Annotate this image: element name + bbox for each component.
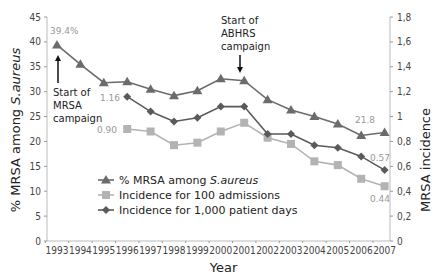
legend-label-1: % MRSA among S.aureus bbox=[119, 174, 258, 187]
left-tick-label: 0 bbox=[35, 236, 41, 247]
mrsa-campaign-label: Start of bbox=[53, 87, 91, 98]
x-tick-label: 1997 bbox=[139, 245, 162, 256]
diamond-marker bbox=[123, 93, 131, 101]
square-marker bbox=[334, 161, 342, 169]
left-tick-label: 35 bbox=[30, 61, 41, 72]
legend-label-2: Incidence for 100 admissions bbox=[119, 189, 280, 202]
square-marker bbox=[170, 141, 178, 149]
left-tick-label: 20 bbox=[30, 136, 42, 147]
left-tick-label: 15 bbox=[30, 161, 41, 172]
x-tick-label: 2004 bbox=[303, 245, 326, 256]
diamond-marker bbox=[357, 152, 365, 160]
diamond-marker bbox=[102, 206, 110, 214]
x-tick-label: 2007 bbox=[373, 245, 396, 256]
label-0-44: 0.44 bbox=[370, 194, 390, 204]
mrsa-campaign-arrow-head bbox=[55, 55, 61, 61]
square-marker bbox=[357, 175, 365, 183]
right-tick-label: 0,4 bbox=[397, 186, 412, 197]
right-tick-label: 1,2 bbox=[397, 86, 411, 97]
series-line bbox=[127, 97, 384, 170]
square-marker bbox=[217, 127, 225, 135]
abhrs-campaign-label: ABHRS bbox=[221, 28, 256, 39]
left-tick-label: 40 bbox=[30, 36, 42, 47]
abhrs-campaign-label: campaign bbox=[221, 41, 270, 52]
left-tick-label: 25 bbox=[30, 111, 41, 122]
diamond-marker bbox=[287, 130, 295, 138]
square-marker bbox=[147, 127, 155, 135]
square-marker bbox=[381, 182, 389, 190]
x-tick-label: 1995 bbox=[92, 245, 115, 256]
square-marker bbox=[102, 191, 110, 199]
right-tick-label: 0,6 bbox=[397, 161, 412, 172]
abhrs-campaign-label: Start of bbox=[221, 15, 259, 26]
square-marker bbox=[287, 140, 295, 148]
label-0-57: 0.57 bbox=[370, 153, 390, 163]
left-tick-label: 5 bbox=[35, 211, 41, 222]
triangle-marker bbox=[192, 86, 202, 95]
y-axis-title: % MRSA among S.aureus bbox=[8, 48, 23, 213]
left-tick-label: 10 bbox=[30, 186, 42, 197]
x-tick-label: 2001 bbox=[233, 245, 256, 256]
right-tick-label: 1,4 bbox=[397, 61, 412, 72]
mrsa-campaign-label: MRSA bbox=[53, 100, 82, 111]
x-tick-label: 2005 bbox=[326, 245, 349, 256]
left-tick-label: 30 bbox=[30, 86, 42, 97]
x-axis-title: Year bbox=[209, 260, 238, 275]
x-tick-label: 2002 bbox=[256, 245, 279, 256]
series-line bbox=[57, 45, 385, 136]
right-tick-label: 1,6 bbox=[397, 36, 412, 47]
legend-label-3: Incidence for 1,000 patient days bbox=[119, 204, 298, 217]
diamond-marker bbox=[381, 166, 389, 174]
x-tick-label: 1999 bbox=[186, 245, 209, 256]
triangle-marker bbox=[52, 40, 62, 49]
diamond-marker bbox=[170, 118, 178, 126]
mrsa-campaign-label: campaign bbox=[53, 113, 102, 124]
x-tick-label: 2000 bbox=[209, 245, 232, 256]
diamond-marker bbox=[310, 141, 318, 149]
square-marker bbox=[240, 119, 248, 127]
right-tick-label: 1 bbox=[397, 111, 403, 122]
right-tick-label: 0,2 bbox=[397, 211, 411, 222]
x-tick-label: 2003 bbox=[280, 245, 303, 256]
label-39-4: 39.4% bbox=[50, 26, 79, 36]
right-tick-label: 1,8 bbox=[397, 12, 412, 23]
line-chart: 05101520253035404500,20,40,60,811,21,41,… bbox=[0, 0, 436, 280]
x-tick-label: 1996 bbox=[116, 245, 139, 256]
y2-axis-title: MRSA incidence bbox=[418, 108, 433, 212]
x-tick-label: 1998 bbox=[163, 245, 186, 256]
triangle-marker bbox=[380, 127, 390, 136]
diamond-marker bbox=[147, 108, 155, 116]
triangle-marker bbox=[216, 74, 226, 83]
x-tick-label: 2006 bbox=[350, 245, 373, 256]
square-marker bbox=[193, 139, 201, 147]
diamond-marker bbox=[193, 114, 201, 122]
x-tick-label: 1994 bbox=[69, 245, 92, 256]
square-marker bbox=[310, 157, 318, 165]
abhrs-arrow-head bbox=[237, 67, 243, 73]
triangle-marker bbox=[122, 77, 132, 86]
left-tick-label: 45 bbox=[30, 12, 41, 23]
label-21-8: 21.8 bbox=[355, 115, 375, 125]
label-1-16: 1.16 bbox=[100, 93, 120, 103]
diamond-marker bbox=[217, 103, 225, 111]
right-tick-label: 0 bbox=[397, 236, 403, 247]
x-tick-label: 1993 bbox=[46, 245, 69, 256]
right-tick-label: 0,8 bbox=[397, 136, 412, 147]
label-0-90: 0.90 bbox=[97, 125, 117, 135]
diamond-marker bbox=[334, 144, 342, 152]
square-marker bbox=[123, 125, 131, 133]
